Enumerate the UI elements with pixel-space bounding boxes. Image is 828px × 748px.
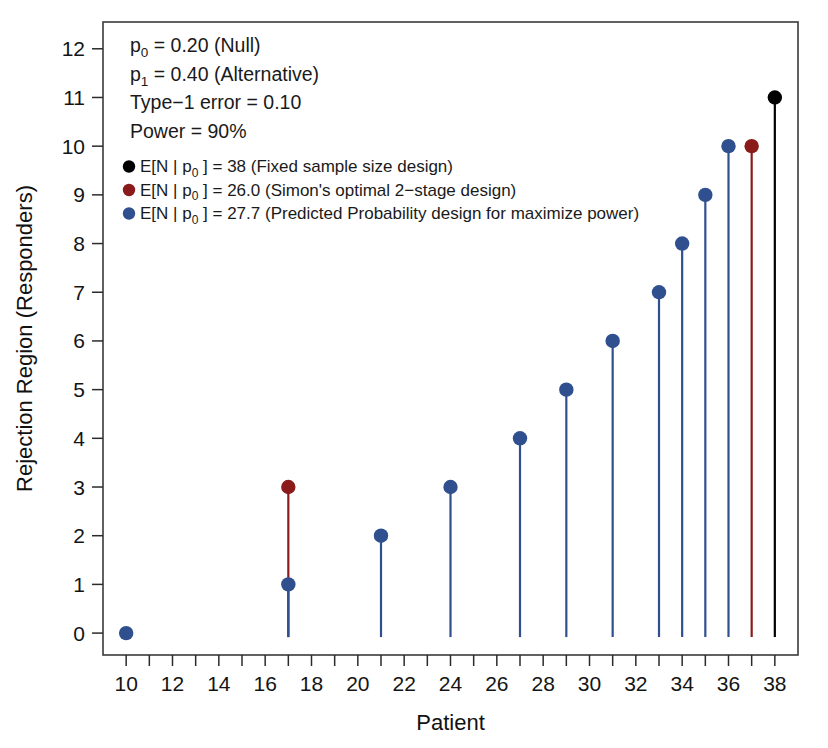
x-tick-label: 18 <box>300 672 323 695</box>
x-tick-label: 12 <box>161 672 184 695</box>
data-point-marker <box>744 139 758 153</box>
y-tick-label: 9 <box>73 183 85 206</box>
y-tick-label: 8 <box>73 232 85 255</box>
data-point-marker <box>513 431 527 445</box>
legend-marker-icon <box>123 207 135 219</box>
x-tick-label: 38 <box>763 672 786 695</box>
data-point-marker <box>698 188 712 202</box>
x-tick-label: 22 <box>392 672 415 695</box>
x-tick-label: 28 <box>531 672 554 695</box>
x-tick-label: 10 <box>114 672 137 695</box>
x-tick-label: 14 <box>207 672 231 695</box>
x-axis-title: Patient <box>416 710 485 735</box>
design-parameter-line: Power = 90% <box>130 120 247 142</box>
y-tick-label: 5 <box>73 378 85 401</box>
y-tick-label: 11 <box>63 86 85 109</box>
data-point-marker <box>559 382 573 396</box>
rejection-region-plot: 0123456789101112 10121416182022242628303… <box>0 0 828 748</box>
x-tick-label: 34 <box>670 672 694 695</box>
y-tick-label: 3 <box>73 476 85 499</box>
x-tick-label: 30 <box>578 672 601 695</box>
y-tick-label: 10 <box>62 135 85 158</box>
data-point-marker <box>281 577 295 591</box>
x-tick-label: 16 <box>253 672 276 695</box>
legend-marker-icon <box>123 160 135 172</box>
data-point-marker <box>374 529 388 543</box>
y-tick-label: 4 <box>73 427 85 450</box>
y-tick-label: 2 <box>73 524 85 547</box>
x-tick-label: 24 <box>439 672 463 695</box>
data-point-marker <box>652 285 666 299</box>
x-tick-label: 36 <box>717 672 740 695</box>
data-point-marker <box>119 626 133 640</box>
y-tick-label: 6 <box>73 329 85 352</box>
x-tick-label: 26 <box>485 672 508 695</box>
x-tick-label: 32 <box>624 672 647 695</box>
data-point-marker <box>281 480 295 494</box>
y-tick-label: 1 <box>73 573 85 596</box>
legend-marker-icon <box>123 184 135 196</box>
y-tick-label: 7 <box>73 281 85 304</box>
data-point-marker <box>768 90 782 104</box>
data-point-marker <box>443 480 457 494</box>
y-axis-title: Rejection Region (Responders) <box>12 185 37 492</box>
chart-figure: 0123456789101112 10121416182022242628303… <box>0 0 828 748</box>
y-tick-label: 0 <box>73 622 85 645</box>
y-tick-label: 12 <box>62 37 85 60</box>
data-point-marker <box>675 236 689 250</box>
design-parameter-line: Type−1 error = 0.10 <box>130 91 301 113</box>
data-point-marker <box>721 139 735 153</box>
x-tick-label: 20 <box>346 672 369 695</box>
data-point-marker <box>605 334 619 348</box>
